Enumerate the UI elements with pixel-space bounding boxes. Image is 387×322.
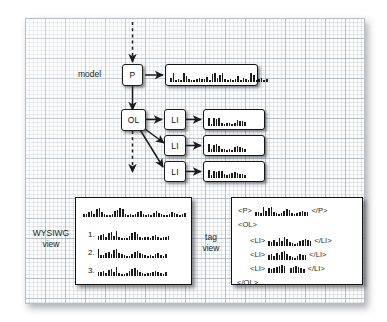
diagram-scene: model WYSIWG view tag view P OL LI LI LI bbox=[0, 0, 387, 322]
list-marker-1: 1. bbox=[88, 230, 95, 240]
node-li-3[interactable]: LI bbox=[164, 161, 186, 182]
tag-li-2-open: <LI> bbox=[250, 250, 265, 260]
bar-run-tag-li2-content bbox=[268, 251, 306, 260]
bar-run-li1-content bbox=[208, 118, 246, 126]
node-p-label: P bbox=[130, 70, 136, 80]
list-marker-3: 3. bbox=[88, 266, 95, 276]
content-box-paragraph[interactable] bbox=[165, 64, 258, 86]
wysiwyg-view-label-line2: view bbox=[28, 239, 74, 250]
bar-run-tag-li1-content bbox=[268, 237, 311, 246]
model-label: model bbox=[78, 69, 101, 80]
tag-li-3-close: </LI> bbox=[308, 264, 325, 274]
node-li-2-label: LI bbox=[171, 141, 179, 151]
node-ol-label: OL bbox=[128, 115, 140, 125]
tag-li-2-close: </LI> bbox=[309, 250, 326, 260]
bar-run-wysiwyg-item-2 bbox=[98, 249, 167, 258]
bar-run-wysiwyg-paragraph bbox=[83, 208, 186, 217]
tag-view-label: tag view bbox=[196, 232, 226, 254]
bar-run-wysiwyg-item-1 bbox=[98, 231, 170, 240]
tag-li-1-open: <LI> bbox=[250, 236, 265, 246]
tag-p-close: </P> bbox=[311, 206, 327, 216]
node-li-1[interactable]: LI bbox=[164, 109, 186, 130]
tag-li-1-close: </LI> bbox=[314, 236, 331, 246]
wysiwyg-view-label-line1: WYSIWG bbox=[28, 228, 74, 239]
bar-run-li2-content bbox=[208, 144, 246, 152]
tag-p-open: <P> bbox=[238, 206, 252, 216]
wysiwyg-view-label: WYSIWG view bbox=[28, 228, 74, 250]
list-marker-2: 2. bbox=[88, 248, 95, 258]
tag-ol-close: </OL> bbox=[237, 278, 258, 288]
tag-li-3-open: <LI> bbox=[250, 264, 265, 274]
node-li-2[interactable]: LI bbox=[164, 135, 186, 156]
tag-view-label-line1: tag bbox=[196, 232, 226, 243]
bar-run-tag-li3-content bbox=[268, 265, 304, 273]
bar-run-wysiwyg-item-3 bbox=[98, 267, 167, 276]
bar-run-p-content bbox=[170, 73, 268, 82]
bar-run-tag-p-content bbox=[255, 207, 308, 216]
content-box-li-3[interactable] bbox=[203, 161, 265, 182]
tag-view-label-line2: view bbox=[196, 243, 226, 254]
node-ol[interactable]: OL bbox=[121, 109, 146, 131]
tag-ol-open: <OL> bbox=[238, 220, 257, 230]
content-box-li-1[interactable] bbox=[203, 109, 265, 130]
node-li-3-label: LI bbox=[171, 167, 179, 177]
wysiwyg-panel[interactable]: 1. 2. 3. bbox=[75, 197, 192, 285]
content-box-li-2[interactable] bbox=[203, 135, 265, 156]
node-p[interactable]: P bbox=[122, 64, 143, 86]
node-li-1-label: LI bbox=[171, 115, 179, 125]
bar-run-li3-content bbox=[208, 170, 246, 178]
tag-panel[interactable]: <P> </P> <OL> <LI> </LI> <LI> </LI> <LI>… bbox=[231, 197, 363, 285]
